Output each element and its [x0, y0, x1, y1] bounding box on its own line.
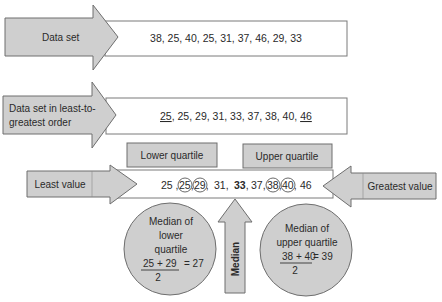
median-label: Median — [230, 242, 241, 276]
nl-value-3-circled: 29 — [194, 179, 206, 191]
lower-median-line3: quartile — [155, 244, 188, 255]
lower-median-circle-group: Median of lower quartile 25 + 29 = 27 2 — [124, 203, 216, 295]
data-set-label: Data set — [42, 32, 79, 43]
upper-median-result: = 39 — [313, 251, 333, 262]
median-arrow-group: Median — [218, 199, 252, 293]
upper-quartile-label: Upper quartile — [256, 151, 319, 162]
nl-value-9: 46 — [300, 179, 312, 191]
sorted-set-arrow — [3, 82, 116, 148]
number-line-values: 25 , 25, 29, 31, 33, 37, 38, 40, 46 — [161, 179, 312, 191]
sorted-set-values: 25, 25, 29, 31, 33, 37, 38, 40, 46 — [160, 110, 312, 122]
data-set-values: 38, 25, 40, 25, 31, 37, 46, 29, 33 — [150, 32, 302, 44]
nl-value-1: 25 — [161, 179, 173, 191]
greatest-value-label: Greatest value — [367, 181, 432, 192]
lower-median-denominator: 2 — [155, 272, 161, 283]
upper-median-line2: upper quartile — [276, 237, 338, 248]
lower-median-result: = 27 — [184, 258, 204, 269]
least-value-label: Least value — [34, 179, 86, 190]
nl-value-8-circled: 40 — [282, 179, 294, 191]
nl-value-7-circled: 38 — [267, 179, 279, 191]
nl-value-2-circled: 25 — [179, 179, 191, 191]
lower-quartile-label: Lower quartile — [141, 150, 204, 161]
box-plot-quartile-diagram: Data set 38, 25, 40, 25, 31, 37, 46, 29,… — [0, 0, 442, 302]
upper-median-numerator: 38 + 40 — [282, 251, 316, 262]
nl-value-4: 31 — [214, 179, 226, 191]
least-value-underlined: 25 — [160, 110, 172, 122]
data-set-row: Data set 38, 25, 40, 25, 31, 37, 46, 29,… — [5, 5, 347, 70]
lower-median-line2: lower — [159, 230, 184, 241]
greatest-value-underlined: 46 — [300, 110, 312, 122]
upper-median-line1: Median of — [285, 223, 329, 234]
upper-median-circle — [260, 204, 352, 296]
lower-median-numerator: 25 + 29 — [143, 258, 177, 269]
nl-value-5-median: 33 — [234, 179, 246, 191]
sorted-set-label-line1: Data set in least-to- — [9, 103, 96, 114]
nl-value-6: 37 — [251, 179, 263, 191]
lower-median-line1: Median of — [149, 216, 193, 227]
number-line-row: Least value Greatest value 25 , 25, 29, … — [27, 165, 436, 207]
sorted-set-label-line2: greatest order — [9, 117, 72, 128]
quartile-labels: Lower quartile Upper quartile — [127, 143, 332, 168]
upper-median-denominator: 2 — [292, 265, 298, 276]
sorted-set-row: Data set in least-to- greatest order 25,… — [3, 82, 347, 148]
upper-median-circle-group: Median of upper quartile 38 + 40 = 39 2 — [260, 204, 352, 296]
sorted-middle-values: , 25, 29, 31, 33, 37, 38, 40, — [172, 110, 300, 122]
